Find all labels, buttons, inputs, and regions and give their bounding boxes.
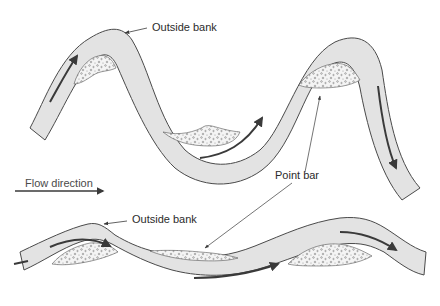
upper-channel-band: [30, 29, 420, 200]
upper-channel: [30, 29, 420, 200]
point-bar-leader-upper: [305, 96, 320, 172]
point-bar-label: Point bar: [275, 170, 319, 181]
outside-bank-upper-leader: [125, 28, 147, 33]
flow-direction-label: Flow direction: [25, 178, 93, 189]
meander-diagram: Outside bank Outside bank Point bar Flow…: [0, 0, 440, 306]
lower-channel: [14, 217, 426, 278]
outside-bank-upper-label: Outside bank: [152, 22, 217, 33]
outside-bank-lower-leader: [104, 221, 127, 224]
outside-bank-lower-label: Outside bank: [132, 214, 197, 225]
